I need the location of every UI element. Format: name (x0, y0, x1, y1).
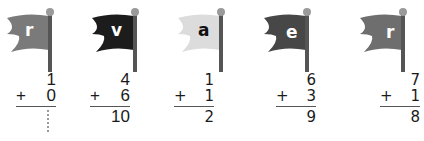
problem-4: e 6 + 3 9 (256, 0, 340, 141)
bottom-addend: 1 (204, 87, 214, 105)
bottom-addend-row: + 0 (16, 88, 56, 104)
sum-line (380, 106, 420, 107)
plus-sign: + (380, 88, 393, 104)
bottom-addend: 0 (47, 86, 56, 105)
problem-3: a 1 + 1 2 (170, 0, 254, 141)
flag-letter: r (25, 22, 33, 39)
flag-letter: a (198, 22, 209, 39)
problem-1: r 1 + 0 (0, 0, 84, 141)
flag-4: e (262, 8, 324, 74)
sum-line (16, 106, 56, 107)
problem-2: v 4 + 6 10 (84, 0, 168, 141)
flag-5: r (358, 8, 420, 74)
sum-line (174, 106, 214, 107)
addition-problem: 1 + 1 2 (174, 72, 214, 125)
plus-sign: + (276, 88, 289, 104)
sum: 10 (90, 109, 130, 125)
flag-3: a (176, 8, 238, 74)
bottom-addend-row: + 1 (174, 88, 214, 104)
flag-icon (90, 8, 152, 74)
bottom-addend-row: + 3 (276, 88, 316, 104)
bottom-addend: 1 (410, 87, 420, 105)
addition-problem: 1 + 0 (16, 72, 56, 107)
addition-problem: 4 + 6 10 (90, 72, 130, 125)
answer-input[interactable] (47, 110, 51, 132)
bottom-addend: 3 (306, 87, 316, 105)
flag-letter: v (111, 22, 122, 39)
flag-2: v (90, 8, 152, 74)
plus-sign: + (90, 88, 100, 104)
top-addend: 6 (276, 72, 316, 88)
plus-sign: + (174, 88, 187, 104)
addition-problem: 7 + 1 8 (380, 72, 420, 125)
flag-icon (176, 8, 238, 74)
bottom-addend-row: + 1 (380, 88, 420, 104)
sum-line (276, 106, 316, 107)
addition-problem: 6 + 3 9 (276, 72, 316, 125)
bottom-addend: 6 (121, 86, 130, 105)
flag-letter: r (386, 24, 394, 41)
sum: 9 (276, 109, 316, 125)
plus-sign: + (16, 88, 26, 104)
flag-icon (5, 8, 67, 74)
sum: 2 (174, 109, 214, 125)
flag-1: r (5, 8, 67, 74)
top-addend: 1 (174, 72, 214, 88)
flag-letter: e (286, 24, 298, 41)
sum: 8 (380, 109, 420, 125)
problem-5: r 7 + 1 8 (340, 0, 424, 141)
bottom-addend-row: + 6 (90, 88, 130, 104)
top-addend: 7 (380, 72, 420, 88)
